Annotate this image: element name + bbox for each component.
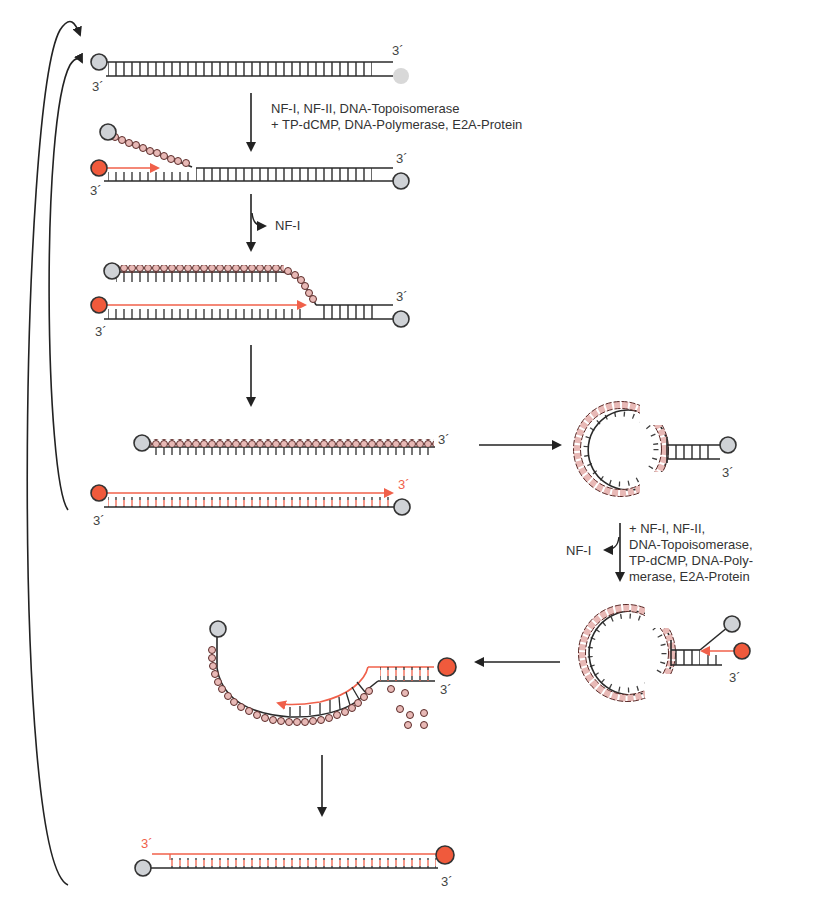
released-e2a-proteins bbox=[388, 686, 428, 729]
stage-initiation: 3´ 3´ bbox=[90, 124, 409, 198]
step5-label-line3: TP-dCMP, DNA-Poly- bbox=[629, 553, 753, 568]
label-3prime: 3´ bbox=[95, 324, 107, 339]
terminal-protein-gray bbox=[104, 263, 120, 279]
terminal-protein-red bbox=[734, 643, 750, 659]
terminal-protein-gray bbox=[135, 860, 151, 876]
terminal-protein-gray bbox=[720, 437, 736, 453]
stage-elongation: 3´ 3´ bbox=[91, 263, 409, 339]
terminal-protein-red bbox=[438, 658, 456, 676]
replication-diagram: 3´ 3´ NF-I, NF-II, DNA-Topoisomerase + T… bbox=[0, 0, 814, 910]
label-3prime-new: 3´ bbox=[398, 477, 410, 492]
step5-label-line2: DNA-Topoisomerase, bbox=[629, 537, 753, 552]
step-arrow-5: NF-I + NF-I, NF-II, DNA-Topoisomerase, T… bbox=[566, 521, 753, 584]
stage-products: 3´ 3´ 3´ bbox=[91, 432, 450, 528]
label-3prime: 3´ bbox=[90, 183, 102, 198]
e2a-beads bbox=[112, 134, 190, 167]
terminal-protein-gray bbox=[393, 173, 409, 189]
terminal-protein-gray bbox=[100, 124, 116, 140]
stage-final-duplex: 3´ 3´ bbox=[135, 836, 454, 889]
label-3prime: 3´ bbox=[396, 289, 408, 304]
stage-panhandle-initiation: 3´ bbox=[579, 600, 751, 702]
label-3prime: 3´ bbox=[441, 874, 453, 889]
stage-panhandle-elongation: 3´ bbox=[209, 621, 457, 729]
terminal-protein-gray bbox=[91, 54, 107, 70]
label-3prime: 3´ bbox=[93, 513, 105, 528]
stage-template-duplex: 3´ 3´ bbox=[91, 43, 409, 94]
terminal-protein-gray bbox=[724, 616, 740, 632]
step-arrow-1: NF-I, NF-II, DNA-Topoisomerase + TP-dCMP… bbox=[251, 93, 522, 150]
terminal-protein-red bbox=[91, 297, 107, 313]
recycle-arrows bbox=[27, 22, 82, 885]
step5-label-line1: + NF-I, NF-II, bbox=[629, 521, 705, 536]
label-3prime: 3´ bbox=[729, 670, 741, 685]
label-3prime: 3´ bbox=[392, 43, 404, 58]
label-3prime: 3´ bbox=[92, 79, 104, 94]
terminal-protein-gray bbox=[210, 621, 226, 637]
nf1-release-label: NF-I bbox=[275, 218, 300, 233]
step5-label-line4: merase, E2A-Protein bbox=[629, 569, 750, 584]
terminal-protein-gray bbox=[393, 311, 409, 327]
stage-panhandle: 3´ bbox=[574, 395, 737, 502]
label-3prime: 3´ bbox=[440, 682, 452, 697]
terminal-protein-gray bbox=[134, 435, 150, 451]
terminal-protein-faded bbox=[393, 68, 409, 84]
label-3prime: 3´ bbox=[438, 432, 450, 447]
label-3prime-new: 3´ bbox=[141, 836, 153, 851]
nf1-release-label: NF-I bbox=[566, 543, 591, 558]
terminal-protein-red bbox=[91, 160, 107, 176]
label-3prime: 3´ bbox=[722, 465, 734, 480]
step-arrow-2: NF-I bbox=[251, 194, 300, 250]
terminal-protein-gray bbox=[394, 499, 410, 515]
step1-label-line2: + TP-dCMP, DNA-Polymerase, E2A-Protein bbox=[271, 117, 522, 132]
terminal-protein-red bbox=[91, 485, 107, 501]
terminal-protein-red bbox=[436, 846, 454, 864]
label-3prime: 3´ bbox=[396, 151, 408, 166]
step1-label-line1: NF-I, NF-II, DNA-Topoisomerase bbox=[271, 101, 460, 116]
